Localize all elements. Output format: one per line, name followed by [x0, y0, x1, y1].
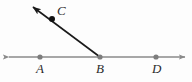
point-c: [49, 16, 55, 22]
geometry-figure: A B D C: [0, 0, 192, 82]
point-label-b: B: [96, 62, 104, 75]
point-a: [37, 54, 42, 59]
ray-BC: [33, 7, 100, 57]
point-d: [153, 54, 158, 59]
point-b: [97, 54, 102, 59]
point-label-a: A: [36, 62, 44, 75]
point-label-d: D: [152, 62, 161, 75]
point-label-c: C: [57, 4, 66, 17]
